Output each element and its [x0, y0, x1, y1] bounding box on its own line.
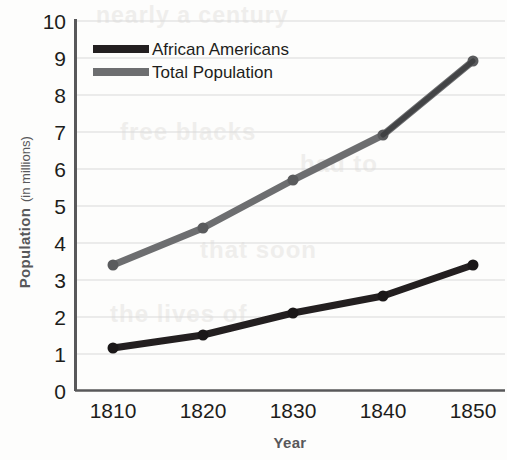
data-point — [108, 260, 119, 271]
series-overlap-shadow — [383, 61, 473, 135]
x-tick-1810: 1810 — [90, 399, 137, 422]
x-tick-1840: 1840 — [360, 399, 407, 422]
y-tick-labels: 10 9 8 7 6 5 4 3 2 1 0 — [43, 10, 67, 403]
legend-label-total-population: Total Population — [152, 63, 273, 82]
y-axis-title-sub: (in millions) — [18, 136, 33, 202]
y-tick-0: 0 — [54, 380, 66, 403]
legend-swatch-african-americans — [93, 45, 149, 53]
series-total-population-line — [113, 61, 473, 265]
data-point — [378, 291, 389, 302]
y-tick-9: 9 — [54, 47, 66, 70]
chart-legend: African Americans Total Population — [93, 40, 289, 82]
legend-swatch-total-population — [93, 68, 149, 76]
y-tick-3: 3 — [54, 269, 66, 292]
y-tick-10: 10 — [43, 10, 66, 33]
line-chart: 10 9 8 7 6 5 4 3 2 1 0 1810 1820 1830 18… — [0, 0, 507, 460]
x-tick-1830: 1830 — [270, 399, 317, 422]
series-african-americans-line — [113, 265, 473, 348]
chart-page: nearly a century free blacks that soon h… — [0, 0, 507, 460]
y-axis-title-main: Population — [16, 208, 33, 289]
series-total-population — [108, 56, 479, 271]
y-tick-2: 2 — [54, 306, 66, 329]
series-total-population-markers — [108, 56, 479, 271]
data-point — [288, 175, 299, 186]
data-point — [288, 308, 299, 319]
y-tick-4: 4 — [54, 232, 66, 255]
x-tick-1820: 1820 — [180, 399, 227, 422]
data-point — [198, 223, 209, 234]
data-point — [198, 330, 209, 341]
y-tick-8: 8 — [54, 84, 66, 107]
series-african-americans — [108, 260, 479, 354]
x-axis-title: Year — [274, 434, 307, 451]
x-tick-1850: 1850 — [450, 399, 497, 422]
data-point — [108, 343, 119, 354]
y-tick-7: 7 — [54, 121, 66, 144]
legend-label-african-americans: African Americans — [152, 40, 289, 59]
x-tick-labels: 1810 1820 1830 1840 1850 — [90, 399, 497, 422]
y-tick-6: 6 — [54, 158, 66, 181]
y-tick-1: 1 — [54, 343, 66, 366]
data-point — [468, 260, 479, 271]
y-tick-5: 5 — [54, 195, 66, 218]
y-axis-title-group: Population (in millions) — [16, 136, 33, 288]
